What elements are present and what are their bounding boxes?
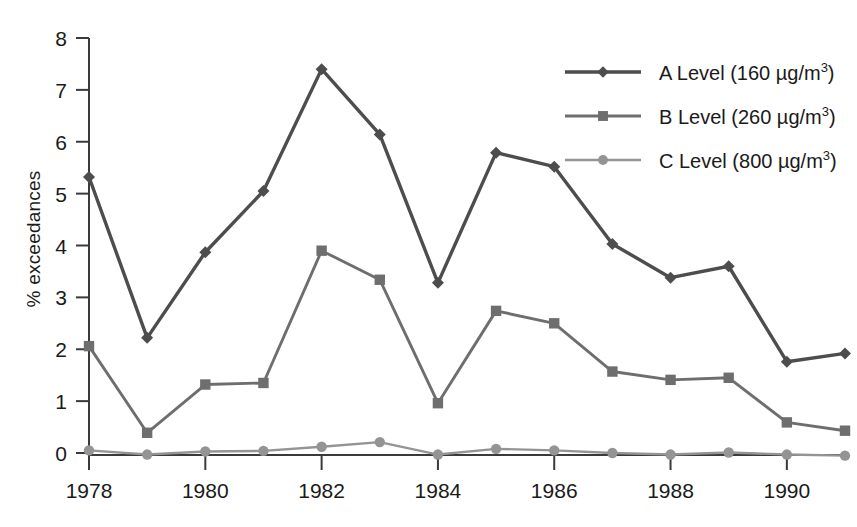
- chart-container: % exceedances 012345678 1978198019821984…: [0, 0, 857, 527]
- series-line: [89, 251, 845, 433]
- x-tick-label: 1984: [415, 479, 462, 502]
- data-point-marker: [607, 448, 617, 458]
- data-point-marker: [375, 437, 385, 447]
- data-point-marker: [83, 171, 95, 183]
- series-c: [84, 437, 850, 461]
- data-point-marker: [433, 398, 443, 408]
- data-point-marker: [258, 446, 268, 456]
- data-point-marker: [200, 379, 210, 389]
- y-tick-label: 4: [55, 235, 67, 258]
- x-axis-ticks: 1978198019821984198619881990: [66, 455, 811, 502]
- data-point-marker: [84, 341, 94, 351]
- chart-legend: A Level (160 µg/m3)B Level (260 µg/m3)C …: [565, 60, 837, 172]
- data-point-marker: [723, 373, 733, 383]
- data-point-marker: [607, 366, 617, 376]
- y-tick-label: 2: [55, 338, 67, 361]
- data-point-marker: [316, 245, 326, 255]
- data-point-marker: [491, 306, 501, 316]
- y-tick-label: 0: [55, 442, 67, 465]
- x-tick-label: 1986: [531, 479, 578, 502]
- legend-label: B Level (260 µg/m3): [659, 104, 836, 128]
- data-point-marker: [840, 425, 850, 435]
- data-point-marker: [200, 446, 210, 456]
- y-tick-label: 3: [55, 286, 67, 309]
- data-point-marker: [142, 428, 152, 438]
- data-point-marker: [258, 378, 268, 388]
- data-point-marker: [840, 450, 850, 460]
- data-point-marker: [782, 449, 792, 459]
- line-chart-plot: 012345678 1978198019821984198619881990 A…: [0, 0, 857, 527]
- data-point-marker: [316, 442, 326, 452]
- y-tick-label: 6: [55, 131, 67, 154]
- data-point-marker: [665, 449, 675, 459]
- y-tick-label: 8: [55, 27, 67, 50]
- x-tick-label: 1982: [298, 479, 345, 502]
- y-tick-label: 5: [55, 183, 67, 206]
- data-point-marker: [142, 449, 152, 459]
- data-point-marker: [598, 111, 608, 121]
- y-tick-label: 7: [55, 79, 67, 102]
- y-tick-label: 1: [55, 390, 67, 413]
- data-point-marker: [375, 275, 385, 285]
- data-point-marker: [782, 417, 792, 427]
- data-point-marker: [433, 449, 443, 459]
- data-point-marker: [598, 155, 608, 165]
- data-point-marker: [723, 447, 733, 457]
- legend-item-a[interactable]: A Level (160 µg/m3): [565, 60, 835, 84]
- y-axis-ticks: 012345678: [55, 27, 89, 465]
- data-point-marker: [84, 445, 94, 455]
- data-point-marker: [491, 444, 501, 454]
- x-tick-label: 1978: [66, 479, 113, 502]
- data-point-marker: [490, 147, 502, 159]
- legend-label: A Level (160 µg/m3): [659, 60, 835, 84]
- data-point-marker: [839, 347, 851, 359]
- legend-item-c[interactable]: C Level (800 µg/m3): [565, 148, 837, 172]
- legend-label: C Level (800 µg/m3): [659, 148, 837, 172]
- data-point-marker: [432, 277, 444, 289]
- x-tick-label: 1990: [763, 479, 810, 502]
- data-point-marker: [549, 318, 559, 328]
- data-point-marker: [665, 375, 675, 385]
- data-point-marker: [597, 66, 608, 77]
- legend-item-b[interactable]: B Level (260 µg/m3): [565, 104, 836, 128]
- x-tick-label: 1980: [182, 479, 229, 502]
- data-point-marker: [549, 445, 559, 455]
- x-tick-label: 1988: [647, 479, 694, 502]
